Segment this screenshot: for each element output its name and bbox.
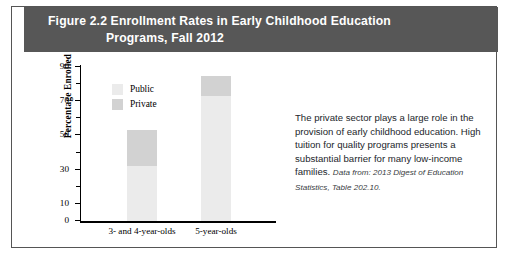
bar-segment-private-2 bbox=[201, 76, 231, 97]
y-axis-line bbox=[80, 65, 81, 222]
y-tick-label-90: 90 bbox=[60, 61, 69, 71]
legend-item-public: Public bbox=[112, 83, 157, 95]
commentary-block: The private sector plays a large role in… bbox=[295, 111, 500, 195]
y-tick-40 bbox=[76, 152, 80, 153]
y-tick-90: 90 bbox=[75, 66, 80, 67]
x-axis-label-2: 5-year-olds bbox=[195, 226, 237, 236]
y-tick-label-50: 50 bbox=[60, 129, 69, 139]
figure-header-bar: Figure 2.2 Enrollment Rates in Early Chi… bbox=[24, 7, 498, 52]
figure-title-line-1: Figure 2.2 Enrollment Rates in Early Chi… bbox=[48, 13, 498, 30]
chart-legend: Public Private bbox=[112, 83, 157, 113]
legend-label-public: Public bbox=[130, 84, 154, 94]
bar-segment-private-1 bbox=[127, 130, 157, 166]
x-axis-line bbox=[80, 221, 276, 223]
y-tick-label-10: 10 bbox=[60, 198, 69, 208]
legend-label-private: Private bbox=[130, 99, 157, 109]
chart: Percentage Enrolled 01030507090 3- and 4… bbox=[30, 55, 282, 245]
commentary-paragraph: The private sector plays a large role in… bbox=[295, 111, 500, 195]
y-tick-label-70: 70 bbox=[60, 95, 69, 105]
y-tick-80 bbox=[76, 83, 80, 84]
y-tick-30: 30 bbox=[75, 169, 80, 170]
y-tick-50: 50 bbox=[75, 134, 80, 135]
y-tick-label-0: 0 bbox=[64, 215, 69, 225]
y-tick-20 bbox=[76, 186, 80, 187]
y-tick-0: 0 bbox=[75, 220, 80, 221]
figure-container: Figure 2.2 Enrollment Rates in Early Chi… bbox=[11, 6, 497, 248]
legend-swatch-private-icon bbox=[112, 99, 123, 110]
y-tick-label-30: 30 bbox=[60, 164, 69, 174]
legend-item-private: Private bbox=[112, 98, 157, 110]
bar-segment-public-2 bbox=[201, 96, 231, 221]
plot-area: 01030507090 3- and 4-year-olds5-year-old… bbox=[80, 65, 276, 222]
bar-segment-public-1 bbox=[127, 166, 157, 221]
citation-label: Data from: bbox=[333, 168, 371, 177]
legend-swatch-public-icon bbox=[112, 84, 123, 95]
bar-1 bbox=[127, 130, 157, 221]
bar-2 bbox=[201, 76, 231, 221]
y-tick-60 bbox=[76, 117, 80, 118]
y-tick-70: 70 bbox=[75, 100, 80, 101]
figure-title-line-2: Programs, Fall 2012 bbox=[48, 30, 498, 47]
y-tick-10: 10 bbox=[75, 203, 80, 204]
x-axis-label-1: 3- and 4-year-olds bbox=[108, 226, 175, 236]
